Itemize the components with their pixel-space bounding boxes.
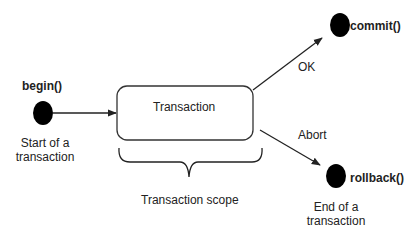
begin-caption-line-2: transaction bbox=[14, 150, 76, 164]
commit-label: commit() bbox=[350, 19, 401, 33]
ok-label: OK bbox=[298, 60, 315, 74]
rollback-caption-line-2: transaction bbox=[304, 214, 368, 228]
begin-caption: Start of a transaction bbox=[14, 136, 76, 164]
transaction-scope-label: Transaction scope bbox=[141, 193, 239, 207]
rollback-caption-line-1: End of a bbox=[304, 200, 368, 214]
begin-caption-line-1: Start of a bbox=[14, 136, 76, 150]
rollback-label: rollback() bbox=[350, 171, 404, 185]
transaction-label: Transaction bbox=[153, 100, 215, 114]
transaction-scope-brace bbox=[119, 148, 262, 177]
commit-node bbox=[330, 13, 350, 37]
rollback-node bbox=[326, 164, 346, 188]
rollback-caption: End of a transaction bbox=[304, 200, 368, 228]
begin-node bbox=[33, 101, 53, 125]
begin-label: begin() bbox=[22, 79, 62, 93]
abort-label: Abort bbox=[298, 128, 327, 142]
